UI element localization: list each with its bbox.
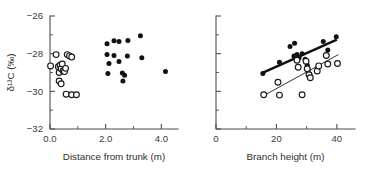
left-point-open-14 xyxy=(69,54,75,60)
left-point-open-9 xyxy=(58,81,64,87)
left-panel-x-axis-title: Distance from trunk (m) xyxy=(63,151,165,162)
left-panel: −26−28−30−320.02.04.0 Distance from trun… xyxy=(5,10,178,162)
left-point-filled-10 xyxy=(139,55,144,60)
left-y-tick-label-1: −28 xyxy=(27,48,43,59)
right-x-tick-label-0: 0 xyxy=(213,133,218,144)
left-point-open-0 xyxy=(48,63,54,69)
right-point-filled-14 xyxy=(325,47,330,52)
right-point-open-0 xyxy=(261,92,267,98)
left-point-filled-3 xyxy=(125,38,130,43)
left-point-filled-9 xyxy=(125,53,130,58)
left-panel-data-points xyxy=(48,33,168,97)
left-point-filled-7 xyxy=(106,61,111,66)
right-x-tick-label-1: 20 xyxy=(271,133,282,144)
right-point-open-9 xyxy=(307,75,313,81)
left-x-tick-label-2: 4.0 xyxy=(155,133,168,144)
left-point-filled-15 xyxy=(163,69,168,74)
right-point-filled-3 xyxy=(292,41,297,46)
left-y-tick-label-2: −30 xyxy=(27,86,43,97)
right-point-open-1 xyxy=(275,79,281,85)
left-panel-tick-labels: −26−28−30−320.02.04.0 xyxy=(27,10,168,144)
right-panel-x-axis-title: Branch height (m) xyxy=(247,151,325,162)
right-point-open-5 xyxy=(299,92,305,98)
figure-svg: −26−28−30−320.02.04.0 Distance from trun… xyxy=(0,0,378,173)
left-point-open-11 xyxy=(63,65,69,71)
left-point-filled-1 xyxy=(112,38,117,43)
right-point-open-13 xyxy=(325,61,331,67)
left-point-open-1 xyxy=(53,52,59,58)
right-panel-tick-labels: 02040 xyxy=(213,133,342,144)
left-point-filled-11 xyxy=(105,71,110,76)
left-point-filled-13 xyxy=(122,73,127,78)
left-series-filled xyxy=(105,33,168,83)
right-point-open-4 xyxy=(295,64,301,70)
figure-container: −26−28−30−320.02.04.0 Distance from trun… xyxy=(0,0,378,173)
right-point-filled-15 xyxy=(334,34,339,39)
right-point-open-12 xyxy=(323,53,329,59)
left-point-filled-6 xyxy=(112,53,117,58)
left-point-filled-5 xyxy=(105,52,110,57)
left-panel-y-axis-title: δ¹³C (‰) xyxy=(5,53,16,91)
left-panel-y-axis-title-group: δ¹³C (‰) xyxy=(5,53,16,91)
right-point-filled-7 xyxy=(300,51,305,56)
right-point-open-6 xyxy=(303,58,309,64)
right-point-open-14 xyxy=(335,61,341,67)
left-series-open xyxy=(48,52,80,98)
right-axis-spine xyxy=(216,16,355,129)
right-point-filled-0 xyxy=(260,71,265,76)
left-axis-spine xyxy=(50,16,178,129)
left-point-filled-0 xyxy=(105,41,110,46)
left-point-filled-4 xyxy=(138,33,143,38)
left-y-tick-label-3: −32 xyxy=(27,123,43,134)
right-panel: 02040 Branch height (m) xyxy=(213,16,355,162)
right-point-open-2 xyxy=(277,92,283,98)
left-x-tick-label-0: 0.0 xyxy=(43,133,56,144)
left-point-filled-14 xyxy=(120,78,125,83)
left-point-filled-2 xyxy=(117,39,122,44)
right-point-filled-2 xyxy=(288,44,293,49)
right-x-tick-label-2: 40 xyxy=(332,133,343,144)
right-point-open-11 xyxy=(316,63,322,69)
left-y-tick-label-0: −26 xyxy=(27,10,43,21)
left-panel-axes xyxy=(50,16,178,129)
right-point-open-7 xyxy=(304,66,310,72)
left-point-open-17 xyxy=(74,92,80,98)
right-panel-axes xyxy=(216,16,355,129)
right-point-open-3 xyxy=(294,57,300,63)
right-point-filled-1 xyxy=(277,60,282,65)
left-point-filled-8 xyxy=(117,59,122,64)
right-point-filled-13 xyxy=(321,39,326,44)
left-x-tick-label-1: 2.0 xyxy=(99,133,112,144)
left-point-open-15 xyxy=(63,91,69,97)
